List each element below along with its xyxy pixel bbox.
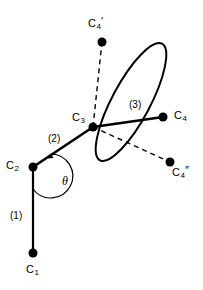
dashed-link-c3-c4doubleprime: [93, 127, 170, 162]
link-label-3: (3): [129, 100, 141, 110]
link-label-1: (1): [10, 211, 22, 221]
joint-label-c4-doubleprime-mark: ″: [185, 164, 189, 176]
linkage-diagram: C1 C2 C3 C4 C4′ C4″ (1) (2) (3) θ: [0, 0, 203, 290]
angle-label-theta: θ: [62, 175, 68, 187]
link-2-segment: [33, 127, 93, 167]
joint-c4-dot: [159, 113, 168, 122]
joint-label-c4-prime: C4′: [88, 16, 103, 31]
dashed-link-c3-c4prime: [93, 42, 102, 127]
joint-label-c3-base: C: [72, 111, 80, 123]
joint-label-c4-prime-base: C: [88, 17, 96, 29]
joint-label-c4-prime-mark: ′: [101, 15, 103, 27]
diagram-canvas: [0, 0, 203, 290]
joint-label-c4-doubleprime-base: C: [172, 166, 180, 178]
joint-label-c1-base: C: [26, 263, 34, 275]
joint-label-c4-base: C: [174, 109, 182, 121]
link-label-2: (2): [48, 134, 60, 144]
joint-label-c3-sub: 3: [80, 116, 84, 125]
joint-label-c2: C2: [6, 160, 19, 173]
joint-label-c4-sub: 4: [182, 114, 186, 123]
joint-label-c2-base: C: [6, 159, 14, 171]
joint-label-c4: C4: [174, 110, 187, 123]
joint-label-c2-sub: 2: [14, 164, 18, 173]
joint-c4prime-dot: [98, 38, 107, 47]
joint-label-c3: C3: [72, 112, 85, 125]
joint-label-c1-sub: 1: [34, 268, 38, 277]
joint-c1-dot: [29, 249, 38, 258]
joint-label-c1: C1: [26, 264, 39, 277]
joint-label-c4-doubleprime: C4″: [172, 165, 189, 180]
joint-c2-dot: [29, 163, 38, 172]
joint-c3-dot: [89, 123, 98, 132]
